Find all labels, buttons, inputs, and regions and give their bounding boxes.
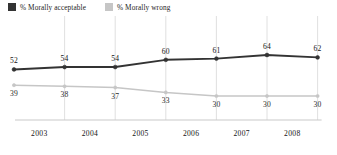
chart-legend: % Morally acceptable % Morally wrong xyxy=(0,0,337,16)
data-label: 62 xyxy=(314,44,322,53)
data-point-marker xyxy=(164,58,168,62)
data-label: 33 xyxy=(162,96,170,105)
data-label: 52 xyxy=(10,56,18,65)
legend-item-morally-acceptable: % Morally acceptable xyxy=(8,1,86,13)
plot-area: 5254546061646239383733303030 20032004200… xyxy=(0,16,337,155)
data-label: 60 xyxy=(162,47,170,56)
data-label: 54 xyxy=(61,54,69,63)
data-label: 38 xyxy=(61,90,69,99)
x-tick-label: 2006 xyxy=(183,129,199,138)
data-point-marker xyxy=(164,91,167,94)
data-point-marker xyxy=(316,94,319,97)
x-tick-label: 2008 xyxy=(284,129,300,138)
x-tick-label: 2007 xyxy=(233,129,249,138)
data-point-marker xyxy=(265,94,268,97)
legend-label-morally-acceptable: % Morally acceptable xyxy=(20,3,86,12)
data-point-marker xyxy=(12,84,15,87)
x-tick-label: 2003 xyxy=(31,129,47,138)
legend-label-morally-wrong: % Morally wrong xyxy=(117,3,170,12)
data-point-marker xyxy=(12,68,16,72)
data-label: 64 xyxy=(263,42,271,51)
data-label: 37 xyxy=(111,92,119,101)
data-label: 30 xyxy=(263,100,271,109)
data-point-marker xyxy=(265,53,269,57)
data-label: 30 xyxy=(212,100,220,109)
data-label: 61 xyxy=(212,46,220,55)
legend-swatch-morally-wrong xyxy=(105,3,113,11)
line-chart: % Morally acceptable % Morally wrong 525… xyxy=(0,0,337,155)
data-label: 39 xyxy=(10,89,18,98)
data-point-marker xyxy=(316,56,320,60)
legend-item-morally-wrong: % Morally wrong xyxy=(105,1,170,13)
x-tick-label: 2005 xyxy=(132,129,148,138)
data-label: 54 xyxy=(111,54,119,63)
data-point-marker xyxy=(215,57,219,61)
data-point-marker xyxy=(63,85,66,88)
data-point-marker xyxy=(114,86,117,89)
data-label: 30 xyxy=(314,100,322,109)
legend-swatch-morally-acceptable xyxy=(8,3,16,11)
data-point-marker xyxy=(113,65,117,69)
data-point-marker xyxy=(215,94,218,97)
x-tick-label: 2004 xyxy=(82,129,98,138)
data-point-marker xyxy=(63,65,67,69)
